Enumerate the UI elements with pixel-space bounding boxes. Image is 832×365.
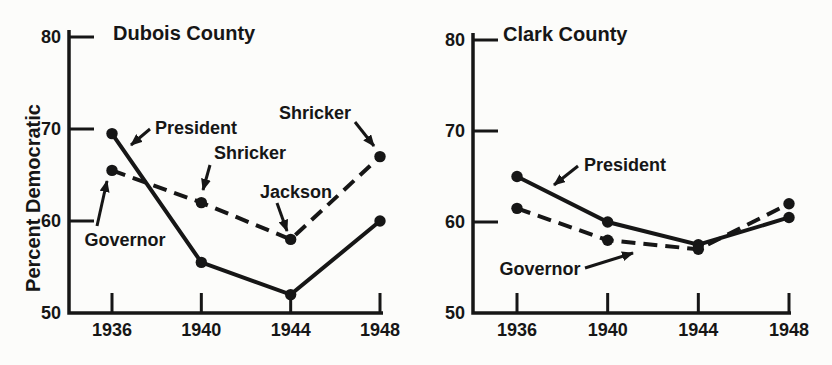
x-tick-label: 1936 <box>92 320 132 340</box>
data-point-governor <box>783 198 794 209</box>
annotation-label-shricker: Shricker <box>279 103 351 123</box>
x-tick-label: 1944 <box>678 320 718 340</box>
y-tick-label: 50 <box>41 303 61 323</box>
annotation-arrow-president <box>131 129 150 145</box>
y-tick-label: 60 <box>445 212 465 232</box>
x-tick-label: 1940 <box>181 320 221 340</box>
data-point-president <box>511 171 522 182</box>
x-tick-label: 1944 <box>271 320 311 340</box>
chart-dubois-county: 506070801936194019441948Dubois CountyPre… <box>41 22 400 340</box>
annotation-label-governor: Governor <box>499 259 580 279</box>
data-point-governor <box>196 197 207 208</box>
y-tick-label: 80 <box>445 30 465 50</box>
annotation-label-president: President <box>155 118 237 138</box>
annotation-label-governor: Governor <box>84 230 165 250</box>
annotation-arrow-shricker <box>355 122 374 146</box>
annotation-label-president: President <box>584 155 666 175</box>
series-line-governor <box>517 204 789 250</box>
dual-line-chart: 506070801936194019441948Dubois CountyPre… <box>0 0 832 365</box>
data-point-governor <box>106 165 117 176</box>
data-point-governor <box>511 203 522 214</box>
data-point-governor <box>285 234 296 245</box>
x-tick-label: 1936 <box>497 320 537 340</box>
y-tick-label: 70 <box>445 121 465 141</box>
data-point-governor <box>374 151 385 162</box>
chart-title: Dubois County <box>113 22 256 44</box>
chart-clark-county: 506070801936194019441948Clark CountyPres… <box>445 23 809 340</box>
data-point-governor <box>602 235 613 246</box>
x-tick-label: 1948 <box>769 320 809 340</box>
y-tick-label: 50 <box>445 303 465 323</box>
data-point-governor <box>693 244 704 255</box>
annotation-arrow-jackson <box>277 203 287 231</box>
series-line-president <box>517 177 789 245</box>
annotation-arrow-governor <box>97 181 107 226</box>
annotation-arrow-governor <box>585 253 633 268</box>
annotation-label-shricker: Shricker <box>214 143 286 163</box>
data-point-president <box>196 257 207 268</box>
figure-canvas: 506070801936194019441948Dubois CountyPre… <box>0 0 832 365</box>
data-point-president <box>602 216 613 227</box>
y-axis-label: Percent Democratic <box>22 104 44 292</box>
annotation-arrow-president <box>554 166 578 185</box>
data-point-president <box>106 128 117 139</box>
data-point-president <box>783 212 794 223</box>
chart-title: Clark County <box>503 23 628 45</box>
annotation-label-jackson: Jackson <box>260 182 332 202</box>
data-point-president <box>374 215 385 226</box>
x-tick-label: 1940 <box>588 320 628 340</box>
y-tick-label: 80 <box>41 27 61 47</box>
series-line-governor <box>112 157 380 240</box>
annotation-arrow-shricker <box>203 165 210 190</box>
x-tick-label: 1948 <box>360 320 400 340</box>
data-point-president <box>285 289 296 300</box>
